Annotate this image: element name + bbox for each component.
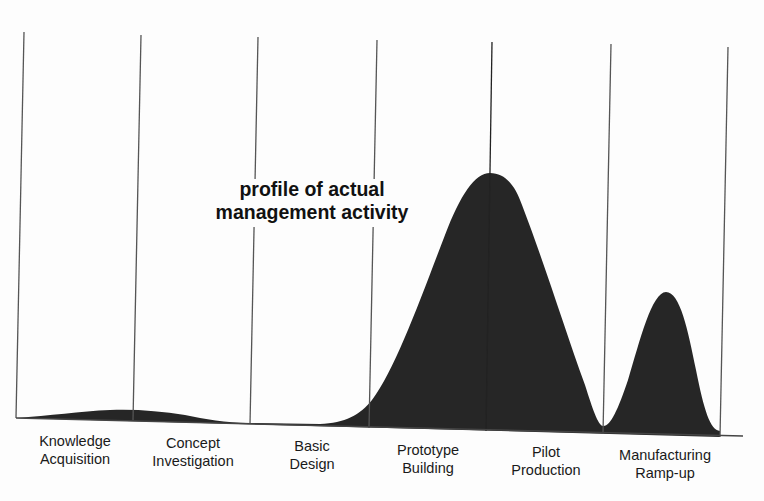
- annotation-line-1: profile of actual: [216, 178, 409, 201]
- phase-label-knowledge-acquisition: Knowledge Acquisition: [39, 432, 111, 468]
- phase-label-prototype-building: Prototype Building: [397, 441, 459, 477]
- phase-label-line-1: Knowledge: [39, 432, 111, 450]
- annotation-line-2: management activity: [216, 201, 409, 224]
- phase-divider-2: [133, 35, 141, 420]
- phase-label-line-1: Concept: [152, 434, 233, 452]
- phase-divider-7: [720, 47, 728, 437]
- activity-profile-diagram: [0, 0, 764, 501]
- phase-label-line-1: Manufacturing: [619, 446, 711, 464]
- phase-label-line-2: Investigation: [152, 452, 233, 470]
- phase-label-line-2: Design: [289, 455, 334, 473]
- phase-label-line-1: Prototype: [397, 441, 459, 459]
- phase-divider-3: [250, 37, 258, 424]
- phase-label-line-2: Acquisition: [39, 450, 111, 468]
- phase-label-basic-design: Basic Design: [289, 437, 334, 473]
- phase-label-pilot-production: Pilot Production: [511, 443, 580, 479]
- phase-label-line-2: Ramp-up: [619, 464, 711, 482]
- phase-divider-6: [603, 44, 611, 434]
- annotation-label: profile of actual management activity: [216, 178, 409, 224]
- phase-dividers: [16, 32, 728, 437]
- phase-label-line-2: Production: [511, 461, 580, 479]
- phase-label-line-1: Pilot: [511, 443, 580, 461]
- phase-divider-4: [369, 40, 377, 428]
- phase-label-manufacturing-ramp-up: Manufacturing Ramp-up: [619, 446, 711, 482]
- phase-label-concept-investigation: Concept Investigation: [152, 434, 233, 470]
- phase-divider-1: [16, 32, 24, 418]
- phase-label-line-1: Basic: [289, 437, 334, 455]
- phase-label-line-2: Building: [397, 459, 459, 477]
